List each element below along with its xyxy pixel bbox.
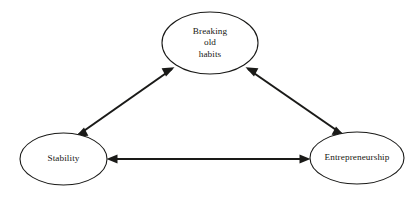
edge-line: [78, 69, 172, 135]
diagram-graphics: [0, 0, 416, 209]
diagram-canvas: Breaking old habits Stability Entreprene…: [0, 0, 416, 209]
edge-line: [248, 69, 342, 134]
edge-stability-breaking-old-habits[interactable]: [76, 67, 175, 137]
edge-entrepreneurship-stability[interactable]: [107, 154, 311, 163]
arrow-head-to-stability: [107, 154, 118, 163]
arrow-head-to-entrepreneurship: [300, 154, 311, 163]
node-ellipse-stability[interactable]: [20, 133, 107, 185]
node-ellipse-breaking-old-habits[interactable]: [162, 12, 258, 74]
node-ellipse-entrepreneurship[interactable]: [310, 132, 404, 184]
edge-breaking-old-habits-entrepreneurship[interactable]: [246, 67, 345, 136]
